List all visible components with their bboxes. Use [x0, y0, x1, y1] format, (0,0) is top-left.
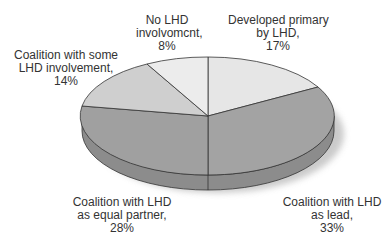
label-none-value: 8%	[136, 40, 198, 53]
slice-equal	[80, 106, 208, 175]
label-lead-value: 33%	[280, 222, 384, 235]
label-equal: Coalition with LHD as equal partner, 28%	[70, 196, 174, 235]
label-developed: Developed primary by LHD, 17%	[228, 14, 328, 53]
label-some-value: 14%	[14, 75, 118, 88]
label-none: No LHD involvomcnt, 8%	[136, 14, 198, 53]
label-equal-value: 28%	[70, 222, 174, 235]
label-developed-value: 17%	[228, 40, 328, 53]
label-lead: Coalition with LHD as lead, 33%	[280, 196, 384, 235]
label-some: Coalition with some LHD involvement, 14%	[14, 49, 118, 88]
